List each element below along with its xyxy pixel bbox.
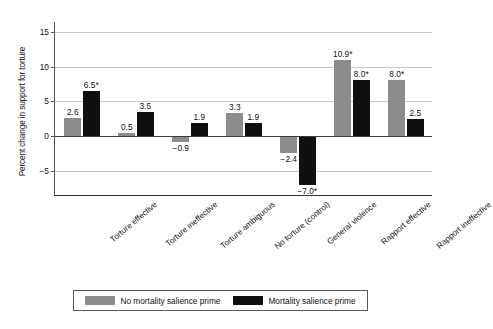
bar-value-label: −2.4 (281, 154, 297, 164)
bar (83, 91, 100, 136)
gridline (55, 32, 432, 33)
legend-label: Mortality salience prime (268, 296, 355, 306)
y-tick-mark (51, 101, 55, 102)
legend-item: No mortality salience prime (85, 296, 220, 306)
y-tick-label: 5 (44, 96, 49, 106)
gridline (55, 171, 432, 172)
y-tick-mark (51, 67, 55, 68)
bar-value-label: 2.6 (67, 107, 79, 117)
bar (299, 136, 316, 185)
y-tick-label: 0 (44, 131, 49, 141)
bar-value-label: 8.0* (354, 69, 369, 79)
bar-value-label: 8.0* (389, 69, 404, 79)
x-axis-category-label: Torture ambiguous (219, 200, 277, 250)
legend-swatch-gray (85, 296, 115, 305)
bar-value-label: 3.3 (229, 102, 241, 112)
bar-value-label: 10.9* (333, 49, 352, 59)
chart-legend: No mortality salience primeMortality sal… (73, 290, 368, 311)
bar (334, 60, 351, 136)
bar-value-label: 6.5* (84, 80, 99, 90)
legend-label: No mortality salience prime (120, 296, 220, 306)
bar (137, 112, 154, 136)
zero-line (55, 136, 432, 137)
bar (353, 80, 370, 136)
bar (245, 123, 262, 136)
gridline (55, 67, 432, 68)
y-tick-label: 10 (40, 62, 49, 72)
y-axis-title: Percent change in support for torture (18, 2, 27, 222)
bar (64, 118, 81, 136)
x-axis-category-label: No torture (control) (273, 200, 331, 251)
y-tick-mark (51, 32, 55, 33)
bar (407, 119, 424, 136)
bar-value-label: 3.5 (139, 101, 151, 111)
legend-swatch-black (233, 296, 263, 305)
x-axis-category-label: General violence (325, 200, 378, 246)
x-axis-category-label: Rapport effective (379, 200, 432, 247)
y-tick-label: 15 (40, 27, 49, 37)
bar-value-label: −7.0* (297, 186, 317, 196)
bar-value-label: 1.9 (193, 112, 205, 122)
bar (388, 80, 405, 136)
plot-area: 151050−5 2.66.5*0.53.5−0.91.93.31.9−2.4−… (54, 22, 432, 196)
bar-value-label: −0.9 (173, 143, 189, 153)
y-tick-mark (51, 171, 55, 172)
x-axis-category-label: Rapport ineffective (435, 200, 493, 251)
bar-value-label: 0.5 (121, 122, 133, 132)
x-axis-category-label: Torture ineffective (164, 200, 219, 248)
x-axis-category-label: Torture effective (109, 200, 159, 244)
bar (191, 123, 208, 136)
bar (226, 113, 243, 136)
y-tick-label: −5 (39, 166, 49, 176)
bar (280, 136, 297, 153)
gridline (55, 101, 432, 102)
bar-value-label: 2.5 (409, 108, 421, 118)
bar-value-label: 1.9 (247, 112, 259, 122)
legend-item: Mortality salience prime (233, 296, 355, 306)
